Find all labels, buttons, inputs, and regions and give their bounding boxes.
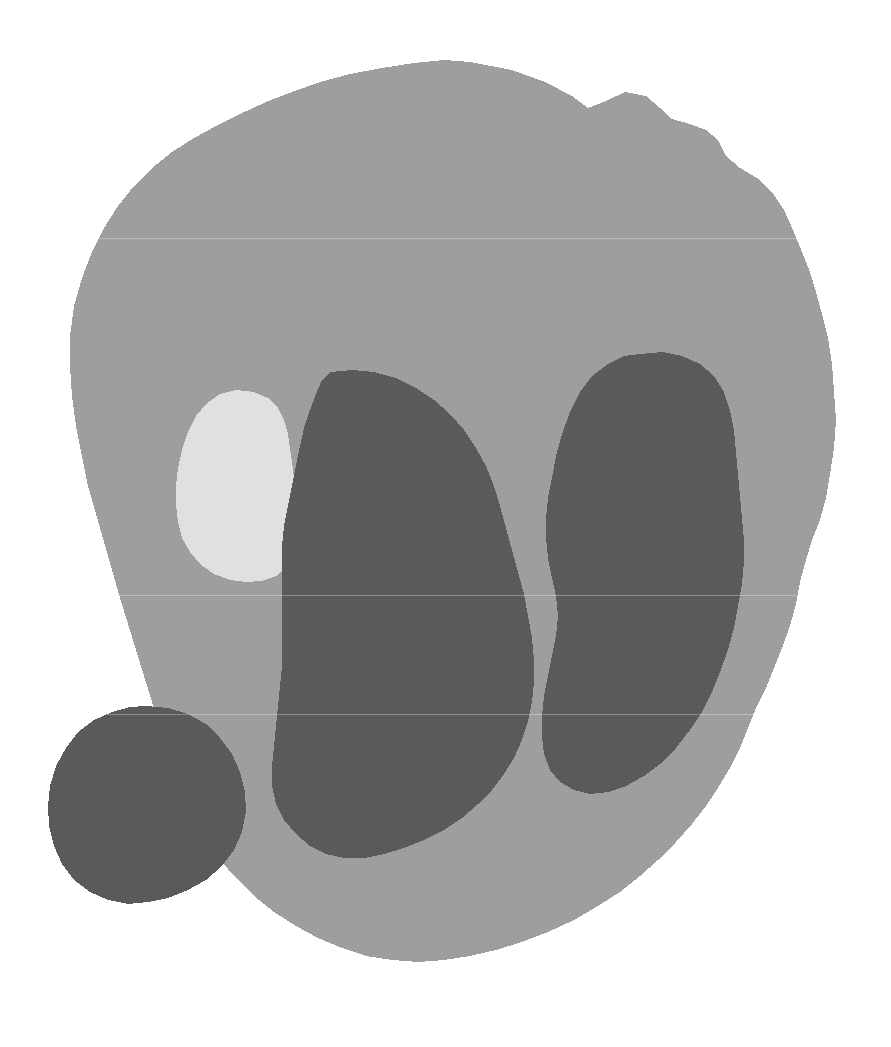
mask-svg [0, 0, 891, 1047]
segmentation-mask-canvas [0, 0, 891, 1047]
